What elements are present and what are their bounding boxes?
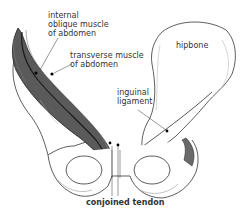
label-transverse-muscle: transverse muscle of abdomen	[70, 51, 144, 69]
leader-internal-oblique	[40, 38, 58, 70]
label-internal-oblique: internal oblique muscle of abdomen	[48, 11, 109, 38]
label-conjoined-tendon: conjoined tendon	[86, 198, 164, 207]
right-obturator-foramen	[134, 156, 170, 184]
pelvis-illustration	[0, 0, 245, 218]
label-inguinal-ligament: inguinal ligament	[117, 88, 152, 106]
left-obturator-foramen	[66, 156, 102, 184]
label-hipbone: hipbone	[176, 41, 208, 50]
left-muscle-band	[12, 28, 116, 165]
pelvis-diagram: internal oblique muscle of abdomen trans…	[0, 0, 245, 218]
